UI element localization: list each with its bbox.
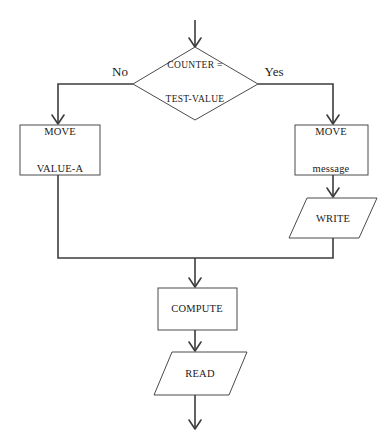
connector-no-branch <box>58 84 133 123</box>
move-message-shape <box>295 125 368 175</box>
move-value-a-shape <box>20 125 100 175</box>
write-shape <box>289 198 377 238</box>
flowchart-diagram: COUNTER = TEST-VALUE No Yes MOVE VALUE-A… <box>0 0 389 435</box>
flowchart-canvas <box>0 0 389 435</box>
read-shape <box>154 352 247 395</box>
connector-left-merge <box>58 175 195 258</box>
connector-right-merge <box>195 238 333 258</box>
compute-shape <box>158 288 237 330</box>
decision-shape <box>133 47 258 120</box>
connector-yes-branch <box>258 84 333 123</box>
